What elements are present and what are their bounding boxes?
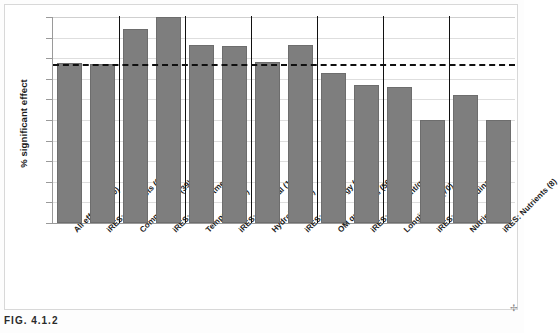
gridline-100 xyxy=(53,17,515,18)
figure-caption: FIG. 4.1.2 xyxy=(4,315,58,326)
group-separator xyxy=(251,16,252,223)
bar xyxy=(288,45,313,223)
bar xyxy=(123,29,148,223)
bar xyxy=(189,45,214,223)
y-axis-title: % significant effect xyxy=(18,39,29,209)
bar xyxy=(420,120,445,223)
bar xyxy=(321,73,346,223)
group-separator xyxy=(383,16,384,223)
bar xyxy=(387,87,412,223)
bar xyxy=(453,95,478,223)
bar xyxy=(90,64,115,223)
group-separator xyxy=(185,16,186,223)
threshold-dashed-line xyxy=(53,64,515,66)
scan-artifact-icon: ✢ xyxy=(510,303,518,311)
bar xyxy=(57,63,82,223)
bar xyxy=(222,46,247,223)
group-separator xyxy=(119,16,120,223)
group-separator xyxy=(449,16,450,223)
bar xyxy=(486,120,511,223)
bar xyxy=(354,85,379,223)
bar xyxy=(156,17,181,223)
bar xyxy=(255,62,280,223)
group-separator xyxy=(317,16,318,223)
